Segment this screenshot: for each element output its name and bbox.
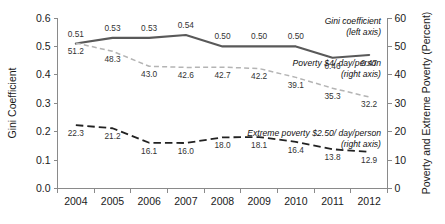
- data-label-2-0: 22.3: [68, 128, 85, 138]
- data-label-1-6: 39.1: [288, 80, 305, 90]
- left-tick-label: 0.2: [36, 125, 51, 137]
- x-tick-label: 2010: [284, 195, 308, 207]
- data-label-1-5: 42.2: [251, 71, 268, 81]
- legend-gini-line1: Gini coefficient: [325, 16, 382, 26]
- left-tick-label: 0.4: [36, 68, 51, 80]
- data-label-2-7: 13.8: [324, 152, 341, 162]
- right-tick-label: 0: [395, 182, 401, 194]
- right-axis-ticks: 0102030405060: [388, 12, 407, 195]
- x-tick-label: 2011: [321, 195, 344, 207]
- data-label-2-4: 18.0: [214, 140, 231, 150]
- data-label-0-0: 0.51: [68, 29, 85, 39]
- data-label-1-8: 32.2: [361, 99, 378, 109]
- left-tick-label: 0.6: [36, 12, 51, 24]
- right-tick-label: 60: [395, 12, 407, 24]
- data-label-0-3: 0.54: [178, 20, 195, 30]
- left-axis-title: Gini Coefficient: [6, 67, 18, 138]
- left-axis-ticks: 0.00.10.20.30.40.50.6: [36, 12, 58, 195]
- data-label-1-1: 48.3: [104, 54, 121, 64]
- data-label-2-5: 18.1: [251, 140, 268, 150]
- right-tick-label: 40: [395, 68, 407, 80]
- data-label-2-3: 16.0: [178, 146, 195, 156]
- data-label-layer: 0.510.530.530.540.500.500.500.460.4751.2…: [68, 20, 378, 165]
- x-tick-label: 2005: [101, 195, 125, 207]
- legend-extreme-line1: Extreme poverty $2.50/ day/person: [247, 128, 381, 138]
- data-label-1-3: 42.6: [178, 70, 195, 80]
- x-tick-label: 2009: [247, 195, 271, 207]
- data-label-2-8: 12.9: [361, 155, 378, 165]
- x-tick-label: 2008: [211, 195, 235, 207]
- data-label-0-1: 0.53: [104, 23, 121, 33]
- dual-axis-line-chart: Gini Coefficient Poverty and Extreme Pov…: [0, 0, 445, 224]
- x-axis-ticks: [58, 189, 388, 193]
- data-label-1-4: 42.7: [214, 70, 231, 80]
- legend-extreme-line2: (right axis): [341, 139, 381, 149]
- right-tick-label: 50: [395, 40, 407, 52]
- x-axis-tick-labels: 200420052006200720082009201020112012: [64, 195, 381, 207]
- chart-container: Gini Coefficient Poverty and Extreme Pov…: [0, 0, 445, 224]
- right-tick-label: 30: [395, 97, 407, 109]
- data-label-0-2: 0.53: [141, 23, 158, 33]
- x-tick-label: 2004: [64, 195, 88, 207]
- x-tick-label: 2012: [357, 195, 381, 207]
- data-label-0-6: 0.50: [288, 31, 305, 41]
- data-label-1-2: 43.0: [141, 69, 158, 79]
- data-label-2-6: 16.4: [288, 145, 305, 155]
- legend-gini-line2: (left axis): [346, 27, 381, 37]
- data-label-1-7: 35.3: [324, 91, 341, 101]
- data-label-2-2: 16.1: [141, 146, 158, 156]
- left-tick-label: 0.0: [36, 182, 51, 194]
- data-label-1-0: 51.2: [68, 46, 85, 56]
- data-label-0-4: 0.50: [214, 31, 231, 41]
- right-tick-label: 10: [395, 154, 407, 166]
- left-tick-label: 0.1: [36, 154, 51, 166]
- legend-poverty-line2: (right axis): [341, 69, 381, 79]
- right-tick-label: 20: [395, 125, 407, 137]
- left-tick-label: 0.3: [36, 97, 51, 109]
- right-axis-title: Poverty and Extreme Poverty (Percent): [420, 12, 432, 195]
- data-label-0-5: 0.50: [251, 31, 268, 41]
- x-tick-label: 2006: [137, 195, 161, 207]
- data-label-2-1: 21.2: [104, 131, 121, 141]
- left-tick-label: 0.5: [36, 40, 51, 52]
- legend-poverty-line1: Poverty $4/ day/person: [293, 58, 382, 68]
- x-tick-label: 2007: [174, 195, 198, 207]
